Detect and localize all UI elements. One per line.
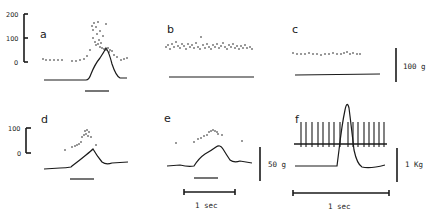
panel-f: f 1 Kg 1 sec: [293, 104, 423, 211]
force-trace-c: [295, 74, 380, 75]
force-trace-d: [44, 149, 128, 169]
frequency-dots-b: [165, 36, 253, 50]
panel-e: e 50 g 1 sec: [164, 112, 286, 210]
frequency-dots-a: [42, 21, 128, 62]
panel-label-c: c: [292, 23, 298, 36]
panel-a: 200 100 0 a: [6, 11, 128, 91]
panel-d: 100 0 d: [8, 113, 128, 179]
panel-label-f: f: [295, 113, 300, 126]
panel-label-a: a: [40, 28, 47, 41]
tick-100: 100: [6, 35, 18, 43]
panel-label-d: d: [41, 113, 48, 126]
tick-0: 0: [14, 59, 18, 67]
figure: 200 100 0 a b: [0, 0, 433, 216]
panel-label-b: b: [167, 23, 174, 36]
panel-b: b: [165, 23, 254, 77]
frequency-dots-c: [292, 51, 361, 56]
time-label-e: 1 sec: [195, 201, 218, 210]
scale-label-1kg: 1 Kg: [405, 160, 423, 169]
tick-200: 200: [6, 11, 18, 19]
tick-0: 0: [17, 150, 21, 158]
panel-label-e: e: [164, 112, 171, 125]
frequency-dots-d: [64, 129, 97, 151]
scale-label-50g: 50 g: [268, 160, 286, 169]
force-trace-e: [167, 146, 252, 166]
frequency-dots-e: [175, 129, 243, 144]
scale-label-100g: 100 g: [403, 62, 426, 71]
force-trace-a: [44, 48, 127, 80]
tick-100: 100: [8, 125, 20, 133]
time-label-f: 1 sec: [328, 202, 351, 211]
panel-c: c 100 g: [292, 23, 426, 82]
